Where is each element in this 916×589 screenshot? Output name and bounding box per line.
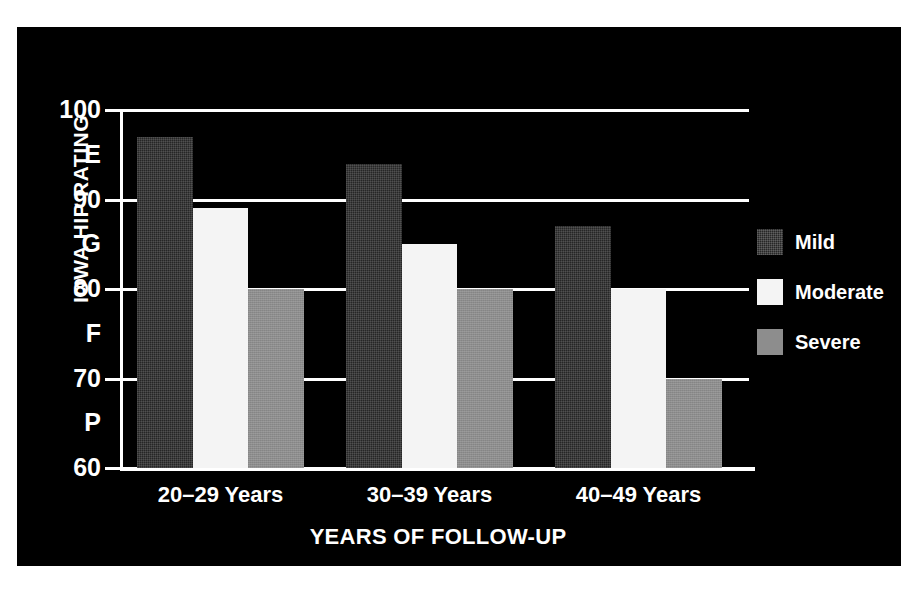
y-tick-90 [105,199,121,202]
x-axis-title: YEARS OF FOLLOW-UP [121,524,755,550]
legend-swatch-icon [757,279,783,305]
legend-item-severe: Severe [757,317,907,367]
bar-severe-1 [457,289,513,468]
bar-moderate-2 [611,289,667,468]
y-tick-80 [105,288,121,291]
y-axis-labels: 10090807060EGFP [25,110,101,468]
y-axis-grade-label: F [31,321,101,346]
x-axis-category-label: 20–29 Years [137,482,304,508]
y-axis-grade-label: P [31,410,101,435]
bar-mild-1 [346,164,402,468]
y-tick-60 [105,467,121,470]
bar-moderate-0 [193,208,249,468]
legend-item-label: Mild [795,231,835,254]
y-axis-tick-label: 70 [31,366,101,391]
y-axis-tick-label: 100 [31,97,101,122]
legend-swatch-icon [757,229,783,255]
y-tick-70 [105,378,121,381]
bar-mild-2 [555,226,611,468]
y-axis-tick-label: 60 [31,455,101,480]
legend-item-label: Severe [795,331,861,354]
y-tick-100 [105,109,121,112]
legend-item-label: Moderate [795,281,884,304]
bar-series-group [121,110,749,468]
chart-panel: IOWA HIP RATING 10090807060EGFP 20–29 Ye… [17,27,901,566]
bar-mild-0 [137,137,193,468]
legend-item-moderate: Moderate [757,267,907,317]
y-axis-grade-label: E [31,142,101,167]
chart-figure: IOWA HIP RATING 10090807060EGFP 20–29 Ye… [0,0,916,589]
y-axis-grade-label: G [31,231,101,256]
y-axis-tick-label: 80 [31,276,101,301]
y-axis-tick-label: 90 [31,187,101,212]
legend-swatch-icon [757,329,783,355]
chart-legend: MildModerateSevere [757,217,907,367]
bar-severe-2 [666,379,722,469]
x-axis-category-label: 40–49 Years [555,482,722,508]
x-axis-category-label: 30–39 Years [346,482,513,508]
plot-area: 10090807060EGFP 20–29 Years30–39 Years40… [121,110,749,468]
bar-severe-0 [248,289,304,468]
legend-item-mild: Mild [757,217,907,267]
bar-moderate-1 [402,244,458,468]
